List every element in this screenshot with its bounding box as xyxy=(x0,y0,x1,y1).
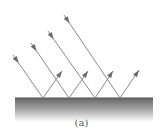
reflected-arrow-icon xyxy=(82,71,88,78)
figure-label: (a) xyxy=(0,117,163,128)
reflection-diagram xyxy=(0,0,163,135)
reflected-arrow-icon xyxy=(133,70,139,77)
incident-arrow-icon xyxy=(64,16,70,23)
incident-ray-4 xyxy=(64,15,120,98)
incident-arrow-icon xyxy=(48,32,54,39)
incident-arrow-icon xyxy=(13,56,19,63)
incident-ray-3 xyxy=(48,31,95,98)
reflected-arrow-icon xyxy=(56,71,62,78)
ray-group xyxy=(13,15,139,98)
reflected-arrow-icon xyxy=(107,71,113,78)
incident-arrow-icon xyxy=(31,44,37,51)
